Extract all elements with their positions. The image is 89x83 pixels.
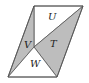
parallelogram-diagram: U V T W <box>0 0 89 83</box>
label-w: W <box>30 58 41 69</box>
label-u: U <box>48 11 57 22</box>
